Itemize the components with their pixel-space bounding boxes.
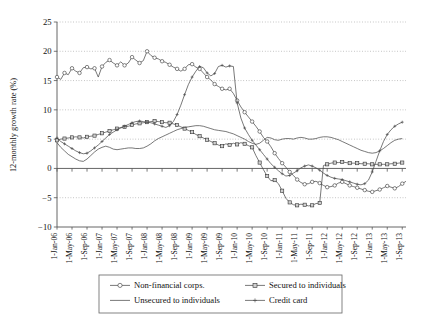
data-point-marker — [401, 161, 404, 164]
data-point-marker — [108, 58, 112, 62]
data-point-marker — [243, 110, 247, 114]
data-point-marker — [236, 143, 239, 146]
data-point-marker — [318, 201, 321, 204]
data-point-marker — [220, 87, 224, 91]
data-point-marker — [288, 170, 292, 174]
data-point-marker — [393, 187, 397, 191]
data-point-marker — [160, 121, 163, 124]
data-point-marker — [115, 64, 119, 68]
data-point-marker — [78, 71, 82, 75]
data-point-marker — [341, 160, 344, 163]
data-point-marker — [183, 67, 187, 71]
x-tick-label: 1-Jan-10 — [230, 233, 239, 260]
data-point-marker — [145, 50, 149, 54]
y-tick-label: −5 — [42, 193, 51, 203]
y-tick-label: 0 — [47, 163, 51, 173]
data-point-marker — [138, 61, 142, 65]
chart-figure: −10−50510152025 1-Jan-061-May-061-Sep-06… — [0, 0, 425, 323]
data-point-marker — [273, 179, 276, 182]
data-point-marker — [123, 64, 127, 68]
data-point-marker — [281, 189, 284, 192]
data-point-marker — [363, 188, 367, 192]
data-point-marker — [311, 204, 314, 207]
legend-label: Credit card — [269, 295, 308, 305]
x-tick-label: 1-Jan-08 — [140, 233, 149, 260]
data-point-marker — [191, 131, 194, 134]
x-tick-label: 1-Jan-13 — [365, 233, 374, 260]
data-point-marker — [93, 67, 97, 71]
data-point-marker — [221, 145, 224, 148]
data-point-marker — [206, 138, 209, 141]
x-tick-label: 1-Jan-12 — [320, 233, 329, 260]
x-tick-label: 1-Jan-11 — [275, 233, 284, 259]
data-point-marker — [310, 180, 314, 184]
data-point-marker — [296, 204, 299, 207]
data-point-marker — [326, 163, 329, 166]
data-point-marker — [303, 182, 307, 186]
data-point-marker — [355, 186, 359, 190]
legend-marker-open-diamond — [118, 283, 122, 287]
data-point-marker — [378, 188, 382, 192]
data-point-marker — [243, 142, 246, 145]
data-point-marker — [85, 135, 88, 138]
data-point-marker — [280, 161, 284, 165]
data-point-marker — [333, 161, 336, 164]
data-point-marker — [205, 75, 209, 79]
data-point-marker — [386, 163, 389, 166]
y-tick-label: 15 — [43, 76, 52, 86]
data-point-marker — [378, 163, 381, 166]
x-tick-label: 1-May-12 — [335, 233, 344, 264]
x-tick-label: 1-Jan-06 — [50, 233, 59, 260]
x-tick-label: 1-May-06 — [65, 233, 74, 264]
data-point-marker — [258, 130, 262, 134]
chart-background — [0, 0, 425, 323]
data-point-marker — [175, 67, 179, 71]
data-point-marker — [258, 161, 261, 164]
x-tick-label: 1-Sep-06 — [80, 233, 89, 261]
data-point-marker — [153, 56, 157, 60]
data-point-marker — [213, 82, 217, 86]
data-point-marker — [348, 184, 352, 188]
data-point-marker — [385, 184, 389, 188]
data-point-marker — [70, 136, 73, 139]
x-tick-label: 1-Sep-12 — [350, 233, 359, 261]
data-point-marker — [63, 71, 67, 75]
data-point-marker — [348, 162, 351, 165]
legend-marker-square — [253, 283, 257, 287]
y-tick-label: 20 — [43, 46, 52, 56]
data-point-marker — [175, 123, 178, 126]
y-axis-label: 12-monthly growth rate (%) — [9, 78, 18, 172]
data-point-marker — [63, 137, 66, 140]
x-tick-label: 1-Sep-09 — [215, 233, 224, 261]
data-point-marker — [100, 65, 104, 69]
data-point-marker — [363, 162, 366, 165]
data-point-marker — [153, 119, 156, 122]
x-tick-label: 1-Jan-09 — [185, 233, 194, 260]
data-point-marker — [371, 163, 374, 166]
data-point-marker — [288, 201, 291, 204]
data-point-marker — [190, 62, 194, 66]
data-point-marker — [356, 162, 359, 165]
x-tick-label: 1-Sep-11 — [305, 233, 314, 261]
data-point-marker — [108, 129, 111, 132]
data-point-marker — [85, 65, 89, 69]
data-point-marker — [266, 174, 269, 177]
x-tick-label: 1-May-09 — [200, 233, 209, 264]
data-point-marker — [100, 132, 103, 135]
legend-label: Non-financial corps. — [134, 280, 205, 290]
x-tick-label: 1-Sep-10 — [260, 233, 269, 261]
data-point-marker — [295, 178, 299, 182]
data-point-marker — [168, 63, 172, 67]
y-tick-label: 10 — [43, 105, 52, 115]
data-point-marker — [303, 203, 306, 206]
data-point-marker — [370, 190, 374, 194]
data-point-marker — [213, 142, 216, 145]
data-point-marker — [198, 135, 201, 138]
data-point-marker — [333, 184, 337, 188]
data-point-marker — [401, 182, 405, 186]
data-point-marker — [55, 75, 59, 79]
y-axis-title: 12-monthly growth rate (%) — [9, 78, 18, 172]
x-tick-label: 1-Sep-08 — [170, 233, 179, 261]
data-point-marker — [78, 136, 81, 139]
data-point-marker — [393, 162, 396, 165]
